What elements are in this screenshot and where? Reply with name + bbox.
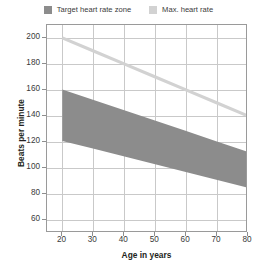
- y-tick-mark: [42, 219, 46, 220]
- x-tick-mark: [92, 232, 93, 236]
- x-tick-label: 70: [203, 236, 229, 244]
- x-tick-label: 20: [48, 236, 74, 244]
- y-tick-mark: [42, 115, 46, 116]
- x-tick-mark: [216, 232, 217, 236]
- x-axis-title: Age in years: [46, 250, 247, 260]
- y-tick-mark: [42, 193, 46, 194]
- y-tick-mark: [42, 89, 46, 90]
- y-axis-title: Beats per minute: [16, 88, 26, 178]
- y-tick-mark: [42, 37, 46, 38]
- x-tick-label: 30: [79, 236, 105, 244]
- x-tick-mark: [247, 232, 248, 236]
- y-tick-label: 180: [14, 59, 40, 67]
- x-tick-mark: [123, 232, 124, 236]
- x-tick-label: 60: [172, 236, 198, 244]
- y-tick-mark: [42, 141, 46, 142]
- y-tick-label: 200: [14, 33, 40, 41]
- x-tick-label: 40: [110, 236, 136, 244]
- x-tick-label: 50: [141, 236, 167, 244]
- y-tick-mark: [42, 167, 46, 168]
- y-tick-label: 80: [14, 189, 40, 197]
- y-tick-label: 60: [14, 215, 40, 223]
- heart-rate-chart: Target heart rate zone Max. heart rate 6…: [0, 0, 257, 276]
- x-tick-mark: [185, 232, 186, 236]
- x-tick-mark: [154, 232, 155, 236]
- x-tick-label: 80: [234, 236, 257, 244]
- y-tick-mark: [42, 63, 46, 64]
- x-tick-mark: [61, 232, 62, 236]
